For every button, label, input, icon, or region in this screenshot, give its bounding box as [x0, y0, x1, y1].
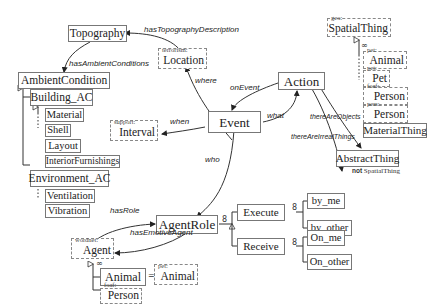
partition-symbol-agent-role: 8 — [222, 216, 227, 224]
infinity-symbol-spatial: ∞ — [361, 42, 368, 50]
namespace-label: wordnet: — [75, 237, 98, 244]
node-name: Person — [108, 290, 139, 302]
node-spatial-thing[interactable]: geo: SpatialThing — [327, 18, 391, 37]
node-name: Location — [163, 55, 204, 67]
node-topography[interactable]: Topography — [68, 25, 127, 42]
node-event[interactable]: Event — [208, 111, 261, 133]
node-material[interactable]: Material — [45, 108, 84, 122]
node-interval[interactable]: support: Interval — [110, 120, 158, 141]
node-on-other[interactable]: On_other — [307, 254, 352, 270]
node-agent[interactable]: wordnet: Agent — [71, 238, 114, 259]
node-execute[interactable]: Execute — [237, 204, 285, 221]
node-action[interactable]: Action — [278, 72, 325, 90]
node-name: SpatialThing — [329, 23, 388, 35]
edge-label-what: what — [267, 112, 284, 120]
partition-symbol-receive: 8 — [292, 239, 297, 247]
edge-label-has-emotive-agent: hasEmotiveAgent — [130, 229, 193, 237]
node-building-ac[interactable]: Building_AC — [30, 89, 93, 106]
node-shell[interactable]: Shell — [45, 124, 71, 137]
partition-symbol-execute: 8 — [292, 204, 297, 212]
namespace-label: foaf: — [104, 282, 116, 289]
namespace-label: support: — [114, 119, 135, 126]
node-name: Person — [374, 109, 405, 121]
node-layout[interactable]: Layout — [45, 139, 81, 153]
equivalence-symbol: = — [148, 272, 155, 280]
edge-label-there-are-objects: thereAreObjects — [310, 113, 361, 120]
namespace-label: geo: — [331, 15, 342, 22]
node-name: Interval — [119, 127, 155, 139]
not-target: SpatialThing — [364, 167, 400, 175]
node-foaf-person-bottom[interactable]: foaf: Person — [100, 288, 142, 304]
edge-label-where: where — [195, 77, 217, 85]
node-ambient-condition[interactable]: AmbientCondition — [18, 72, 110, 89]
node-material-thing[interactable]: MaterialThing — [363, 123, 427, 138]
node-vibration[interactable]: Vibration — [45, 204, 90, 218]
namespace-label: pet: — [367, 65, 377, 72]
not-keyword: not — [352, 167, 362, 174]
edge-label-who: who — [205, 156, 220, 164]
namespace-label: terrorism: — [162, 47, 188, 54]
node-abstract-thing[interactable]: AbstractThing — [336, 150, 399, 167]
node-pers-person[interactable]: pers: Person — [363, 105, 408, 123]
node-name: Agent — [83, 245, 111, 257]
infinity-symbol-agent: ∞ — [96, 260, 103, 268]
edge-label-has-topography-description: hasTopographyDescription — [144, 26, 239, 34]
ontology-diagram: Topography AmbientCondition Building_AC … — [0, 0, 439, 304]
edge-label-on-event: onEvent — [230, 84, 259, 92]
node-pet-animal-bottom[interactable]: pet: Animal — [154, 264, 198, 285]
namespace-label: pers: — [367, 101, 380, 108]
node-receive[interactable]: Receive — [237, 238, 285, 255]
node-name: Animal — [161, 271, 196, 283]
node-environment-ac[interactable]: Environment_AC — [30, 170, 109, 187]
node-by-me[interactable]: by_me — [307, 193, 345, 209]
namespace-label: pet: — [158, 263, 168, 270]
edge-label-has-ambient-conditions: hasAmbientConditions — [69, 60, 149, 68]
namespace-label: pet: — [367, 47, 377, 54]
edge-label-has-role: hasRole — [110, 207, 139, 215]
node-on-me[interactable]: On_me — [307, 230, 345, 246]
namespace-label: foaf: — [367, 83, 379, 90]
edge-label-there-are-irreal-things: thereAreIrrealThings — [291, 133, 355, 140]
node-ventilation[interactable]: Ventilation — [45, 189, 95, 203]
node-interior-furnishings[interactable]: InteriorFurnishings — [45, 155, 120, 168]
abstract-thing-note: not SpatialThing — [352, 168, 400, 175]
node-location[interactable]: terrorism: Location — [158, 48, 207, 69]
edge-label-when: when — [170, 118, 189, 126]
